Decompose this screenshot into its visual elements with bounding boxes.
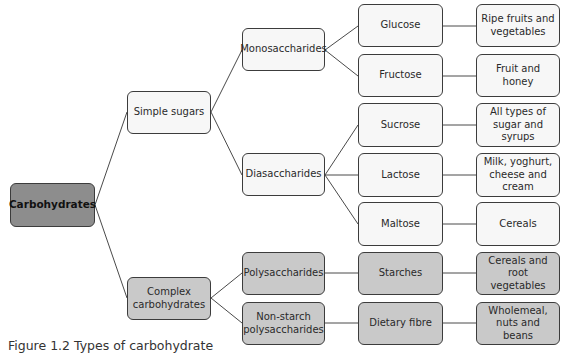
node-lactose-source: Milk, yoghurt, cheese and cream — [476, 153, 560, 197]
edge-simple-mono — [211, 50, 242, 112]
node-simple-sugars: Simple sugars — [127, 91, 211, 134]
edge-di-sucrose — [325, 125, 358, 175]
node-non-starch-polysaccharides: Non-starch polysaccharides — [242, 302, 325, 345]
node-sucrose: Sucrose — [358, 103, 443, 147]
edge-complex-nsp — [211, 298, 242, 323]
node-polysaccharides: Polysaccharides — [242, 252, 325, 295]
edge-mono-fructose — [325, 50, 358, 76]
node-diasaccharides: Diasaccharides — [242, 153, 325, 196]
edge-di-maltose — [325, 175, 358, 224]
edge-mono-glucose — [325, 26, 358, 50]
node-dietary-fibre-source: Wholemeal, nuts and beans — [476, 302, 560, 345]
edge-carbohydrates-simple — [95, 112, 127, 205]
node-maltose-source: Cereals — [476, 202, 560, 246]
node-fructose-source: Fruit and honey — [476, 54, 560, 97]
node-starches: Starches — [358, 252, 443, 295]
node-monosaccharides: Monosaccharides — [242, 28, 325, 71]
node-fructose: Fructose — [358, 54, 443, 97]
edge-complex-poly — [211, 273, 242, 298]
node-dietary-fibre: Dietary fibre — [358, 302, 443, 345]
node-complex-carbohydrates: Complex carbohydrates — [127, 277, 211, 320]
node-glucose: Glucose — [358, 4, 443, 47]
edge-simple-di — [211, 112, 242, 175]
node-maltose: Maltose — [358, 202, 443, 246]
node-starches-source: Cereals and root vegetables — [476, 252, 560, 295]
figure-caption: Figure 1.2 Types of carbohydrate — [8, 338, 213, 353]
node-glucose-source: Ripe fruits and vegetables — [476, 4, 560, 47]
edge-carbohydrates-complex — [95, 205, 127, 298]
node-carbohydrates: Carbohydrates — [10, 183, 95, 227]
node-sucrose-source: All types of sugar and syrups — [476, 103, 560, 147]
node-lactose: Lactose — [358, 153, 443, 197]
